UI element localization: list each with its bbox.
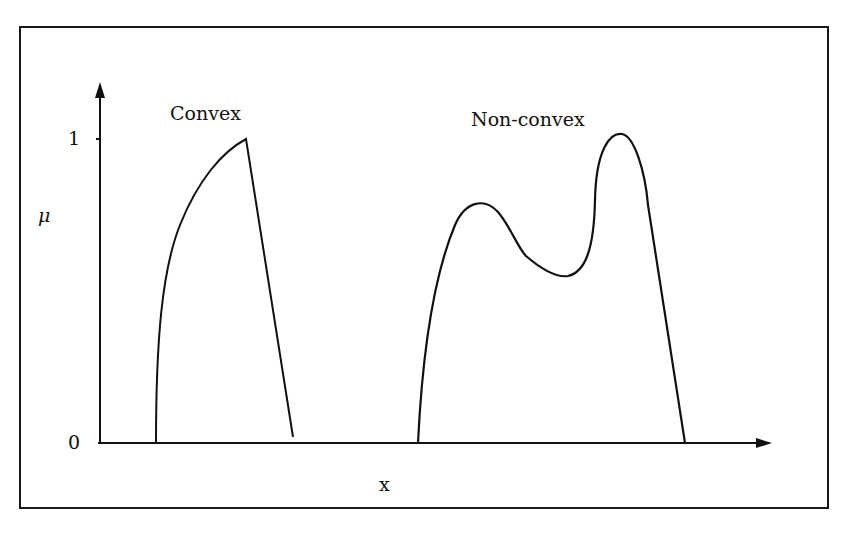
- y-axis-arrow-icon: [95, 82, 105, 98]
- convex-label: Convex: [170, 104, 241, 123]
- nonconvex-label: Non-convex: [471, 110, 585, 129]
- x-axis-label: x: [379, 475, 390, 494]
- y-tick-label-1: 1: [68, 129, 80, 148]
- y-tick-label-0: 0: [68, 433, 80, 452]
- x-axis-arrow-icon: [756, 438, 772, 448]
- membership-plot: [0, 0, 844, 538]
- nonconvex-curve: [418, 134, 685, 443]
- y-axis-label: μ: [38, 206, 50, 225]
- convex-curve: [156, 139, 293, 443]
